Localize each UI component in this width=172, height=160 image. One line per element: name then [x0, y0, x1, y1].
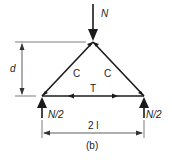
reaction-label-left: N/2 — [48, 109, 64, 120]
height-label: d — [10, 63, 16, 74]
truss-diagram: N C C T N/2 N/2 d 2 l (b) — [0, 0, 172, 160]
figure-caption: (b) — [86, 140, 98, 151]
member-label-bottom: T — [90, 83, 96, 94]
applied-load-arrow — [88, 4, 98, 41]
member-label-left: C — [73, 68, 80, 79]
load-label: N — [101, 8, 109, 19]
member-label-right: C — [104, 68, 111, 79]
left-reaction-arrow — [37, 97, 47, 118]
tension-arrow-right — [112, 94, 118, 99]
right-member — [93, 42, 144, 96]
left-member — [42, 42, 93, 96]
reaction-label-right: N/2 — [146, 109, 162, 120]
tension-arrow-left — [68, 94, 74, 99]
span-label: 2 l — [88, 120, 99, 131]
